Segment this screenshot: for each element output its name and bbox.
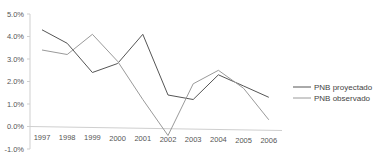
x-tick-label: 2003	[185, 135, 202, 144]
legend-label-proyectado: PNB proyectado	[314, 83, 373, 92]
x-tick-label: 2001	[134, 134, 151, 143]
y-tick-label: 2.0%	[7, 77, 24, 86]
y-tick-label: 4.0%	[7, 32, 24, 41]
x-tick-label: 1999	[84, 133, 101, 142]
x-tick-label: 2004	[210, 135, 227, 144]
x-axis: 1997199819992000200120022003200420052006	[30, 127, 282, 146]
series-lines	[42, 30, 269, 136]
y-tick-label: 3.0%	[7, 55, 24, 64]
x-tick-label: 2005	[235, 136, 252, 145]
legend-label-observado: PNB observado	[314, 94, 371, 103]
x-tick-label: 1998	[59, 133, 76, 142]
x-tick-label: 1997	[34, 133, 51, 142]
x-tick-label: 2006	[260, 136, 277, 145]
series-line-observado	[42, 34, 269, 135]
x-tick-label: 2000	[109, 134, 126, 143]
x-axis-line	[30, 127, 282, 131]
y-tick-label: -1.0%	[4, 145, 24, 154]
y-tick-label: 1.0%	[7, 100, 24, 109]
y-tick-label: 0.0%	[7, 122, 24, 131]
legend: PNB proyectado PNB observado	[293, 83, 373, 103]
y-tick-label: 5.0%	[7, 10, 24, 19]
y-axis: 5.0%4.0%3.0%2.0%1.0%0.0%-1.0%	[4, 10, 30, 154]
line-chart: 5.0%4.0%3.0%2.0%1.0%0.0%-1.0% 1997199819…	[0, 0, 376, 167]
series-line-proyectado	[42, 30, 269, 100]
